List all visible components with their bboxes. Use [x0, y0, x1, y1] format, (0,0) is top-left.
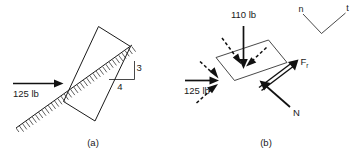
panel-b: 110 lb 125 lb [184, 3, 349, 148]
axis-label-n: n [298, 4, 303, 14]
weight-component-tangential [246, 48, 267, 67]
incline-surface-line [16, 45, 132, 128]
panel-a-caption: (a) [87, 137, 99, 148]
applied-force-label-a: 125 lb [13, 88, 39, 99]
slope-run-label: 4 [117, 81, 122, 92]
statics-figure: 3 4 125 lb (a) 110 lb [0, 0, 358, 159]
normal-force-arrow [260, 81, 291, 108]
applied-force-arrow-b [185, 77, 219, 85]
friction-force-label: Fr [301, 56, 310, 69]
weight-component-normal [222, 38, 242, 65]
applied-component-normal [200, 62, 219, 79]
panel-b-caption: (b) [260, 137, 272, 148]
figure-root: 3 4 125 lb (a) 110 lb [0, 0, 358, 159]
applied-force-arrow-a [13, 80, 64, 88]
nt-axes [303, 13, 346, 34]
axis-label-t: t [346, 3, 349, 13]
normal-force-label: N [293, 107, 300, 118]
slope-rise-label: 3 [137, 62, 142, 73]
panel-a: 3 4 125 lb (a) [13, 27, 142, 149]
friction-force-subscript: r [306, 62, 309, 69]
block-a [64, 27, 131, 122]
weight-label: 110 lb [231, 9, 256, 20]
